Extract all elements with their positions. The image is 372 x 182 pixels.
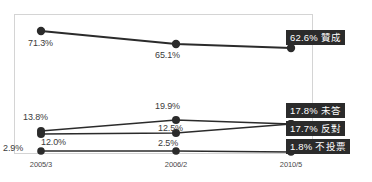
series-line-approve <box>37 27 295 52</box>
callout-novote-value: 1.8% <box>290 141 312 152</box>
point-label-novote-2006: 2.5% <box>158 138 178 148</box>
point-label-approve-2006: 65.1% <box>155 50 180 60</box>
data-point-approve-2005 <box>37 27 45 35</box>
point-label-oppose-2005: 12.0% <box>41 137 66 147</box>
point-label-approve-2005: 71.3% <box>28 38 53 48</box>
point-label-noanswer-2005: 13.8% <box>23 112 48 122</box>
callout-oppose-category: 反對 <box>321 123 341 134</box>
callout-novote-category: 不投票 <box>315 141 346 152</box>
series-path-approve <box>41 31 291 48</box>
x-axis-tick-2010-5: 2010/5 <box>280 160 302 169</box>
callout-approve-value: 62.6% <box>290 32 318 43</box>
series-path-novote <box>41 151 291 152</box>
x-axis-tick-2006-2: 2006/2 <box>165 160 187 169</box>
callout-noanswer-value: 17.8% <box>290 105 318 116</box>
callout-noanswer-category: 未答 <box>321 105 341 116</box>
data-point-novote-2005 <box>37 147 45 155</box>
callout-oppose: 17.7%反對 <box>286 121 345 136</box>
callout-oppose-value: 17.7% <box>290 123 318 134</box>
callout-novote: 1.8%不投票 <box>286 139 350 154</box>
line-chart: 71.3% 65.1% 13.8% 19.9% 12.0% 12.5% 2.9%… <box>0 0 372 182</box>
data-point-novote-2006 <box>172 147 180 155</box>
callout-approve: 62.6%贊成 <box>286 30 345 45</box>
series-layer <box>0 0 372 182</box>
callout-approve-category: 贊成 <box>321 32 341 43</box>
point-label-oppose-2006: 12.5% <box>158 123 183 133</box>
x-axis-tick-2005-3: 2005/3 <box>30 160 52 169</box>
point-label-noanswer-2006: 19.9% <box>155 101 180 111</box>
data-point-approve-2010 <box>287 44 295 52</box>
series-line-novote <box>37 147 295 156</box>
point-label-novote-2005: 2.9% <box>3 143 23 153</box>
data-point-approve-2006 <box>172 40 180 48</box>
callout-noanswer: 17.8%未答 <box>286 103 345 118</box>
